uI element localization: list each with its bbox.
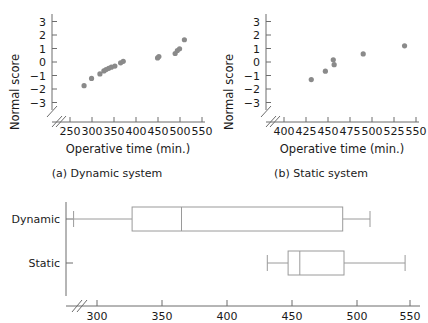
panel-b-axis-break-icon — [261, 106, 280, 127]
data-point — [361, 51, 366, 56]
boxplot-xtick-400: 400 — [217, 310, 238, 323]
panel-a-y-axis-title: Normal score — [8, 54, 22, 130]
panel-c-boxplot: Dynamic Static — [0, 190, 428, 323]
panel-a-axis-break-icon — [47, 106, 66, 127]
data-point — [332, 62, 337, 67]
panel-b-ytick-m2: −2 — [244, 83, 260, 96]
panel-a-xtick-450: 450 — [148, 125, 169, 138]
panel-b-xtick-425: 425 — [296, 125, 317, 138]
boxplot-boxes — [74, 207, 406, 275]
panel-b-data-markers — [309, 43, 407, 82]
panel-a-ytick-2: 2 — [39, 29, 46, 42]
panel-b-plot: Normal score 3 2 1 0 −1 −2 −3 — [214, 0, 428, 190]
boxplot-box-static — [267, 251, 405, 275]
data-point — [323, 69, 328, 74]
boxplot-xtick-350: 350 — [152, 310, 173, 323]
panel-b-xtick-550: 550 — [406, 125, 427, 138]
boxplot-xtick-300: 300 — [87, 310, 108, 323]
box-iqr — [132, 207, 343, 231]
panel-b-y-ticks — [266, 22, 271, 103]
boxplot-xtick-550: 550 — [400, 310, 421, 323]
panel-a-dynamic-system: Normal score 3 2 1 0 −1 −2 −3 — [0, 0, 214, 190]
panel-a-xtick-400: 400 — [126, 125, 147, 138]
boxplot-category-ticks — [66, 219, 73, 263]
data-point — [402, 43, 407, 48]
panel-b-static-system: Normal score 3 2 1 0 −1 −2 −3 — [214, 0, 428, 190]
boxplot-category-label-dynamic: Dynamic — [11, 213, 60, 226]
panel-b-ytick-2: 2 — [253, 29, 260, 42]
panel-b-y-axis-title: Normal score — [222, 54, 236, 130]
panel-a-plot: Normal score 3 2 1 0 −1 −2 −3 — [0, 0, 214, 190]
panel-b-ytick-m1: −1 — [244, 70, 260, 83]
data-point — [331, 57, 336, 62]
panel-b-caption: (b) Static system — [274, 167, 368, 180]
data-point — [121, 59, 126, 64]
panel-a-ytick-3: 3 — [39, 16, 46, 29]
data-point — [89, 76, 94, 81]
panel-a-data-markers — [81, 37, 187, 88]
panel-a-x-axis-title: Operative time (min.) — [66, 142, 190, 156]
data-point — [81, 83, 86, 88]
boxplot-x-ticks — [97, 300, 410, 306]
figure-container: Normal score 3 2 1 0 −1 −2 −3 — [0, 0, 428, 323]
panel-b-ytick-m3: −3 — [244, 97, 260, 110]
panel-b-xtick-450: 450 — [318, 125, 339, 138]
boxplot-category-label-static: Static — [29, 257, 60, 270]
panel-b-xtick-400: 400 — [274, 125, 295, 138]
data-point — [182, 37, 187, 42]
panel-b-ytick-0: 0 — [253, 56, 260, 69]
panel-a-x-ticks — [70, 117, 202, 122]
panel-b-x-ticks — [284, 117, 416, 122]
panel-a-ytick-0: 0 — [39, 56, 46, 69]
boxplot-xtick-450: 450 — [282, 310, 303, 323]
panel-a-ytick-1: 1 — [39, 43, 46, 56]
panel-b-x-axis-title: Operative time (min.) — [280, 142, 404, 156]
box-iqr — [288, 251, 344, 275]
panel-b-ytick-3: 3 — [253, 16, 260, 29]
boxplot-chart: Dynamic Static — [0, 190, 428, 323]
panel-a-ytick-m1: −1 — [30, 70, 46, 83]
panel-a-ytick-m3: −3 — [30, 97, 46, 110]
panel-b-xtick-475: 475 — [340, 125, 361, 138]
panel-a-xtick-300: 300 — [82, 125, 103, 138]
panel-b-xtick-500: 500 — [362, 125, 383, 138]
panel-b-ytick-1: 1 — [253, 43, 260, 56]
panel-a-caption: (a) Dynamic system — [52, 167, 163, 180]
data-point — [309, 77, 314, 82]
panel-a-xtick-350: 350 — [104, 125, 125, 138]
panel-b-xtick-525: 525 — [384, 125, 405, 138]
data-point — [112, 63, 117, 68]
panel-a-ytick-m2: −2 — [30, 83, 46, 96]
panel-a-y-ticks — [52, 22, 57, 103]
data-point — [177, 46, 182, 51]
panel-a-xtick-550: 550 — [192, 125, 213, 138]
panel-a-xtick-250: 250 — [60, 125, 81, 138]
boxplot-box-dynamic — [74, 207, 370, 231]
data-point — [156, 54, 161, 59]
boxplot-xtick-500: 500 — [347, 310, 368, 323]
panel-a-xtick-500: 500 — [170, 125, 191, 138]
